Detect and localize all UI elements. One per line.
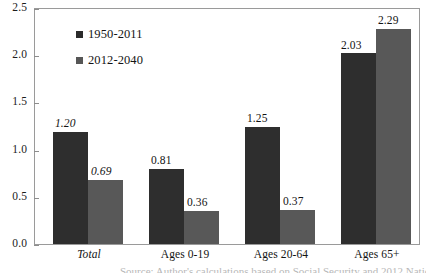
y-axis: 2.5 2.0 1.5 1.0 0.5 0.0 xyxy=(0,0,34,253)
bar-value-label: 1.25 xyxy=(247,112,268,124)
legend-swatch-icon xyxy=(76,57,83,64)
legend-swatch-icon xyxy=(76,31,83,38)
x-axis-label-ages-65-plus: Ages 65+ xyxy=(335,248,419,260)
y-axis-tick-label: 2.0 xyxy=(12,48,27,60)
y-axis-tick-label: 1.0 xyxy=(12,143,27,155)
y-axis-tick-label: 0.0 xyxy=(12,237,27,249)
bar-1950-2011-ages-0-19[interactable] xyxy=(149,169,184,246)
y-axis-tick-label: 1.5 xyxy=(12,95,27,107)
bar-value-label: 0.37 xyxy=(283,195,304,207)
x-axis-baseline xyxy=(35,244,419,245)
bar-value-label: 2.03 xyxy=(341,39,362,51)
bar-value-label: 0.36 xyxy=(187,196,208,208)
bar-chart: 2.5 2.0 1.5 1.0 0.5 0.0 1.20 xyxy=(0,0,426,273)
bar-1950-2011-total[interactable] xyxy=(53,132,88,245)
bar-group-ages-65-plus: 2.03 2.29 xyxy=(335,9,419,245)
bar-2012-2040-ages-20-64[interactable] xyxy=(280,210,315,245)
y-axis-tick-label: 2.5 xyxy=(12,1,27,13)
bar-value-label: 2.29 xyxy=(378,14,399,26)
legend-label: 2012-2040 xyxy=(88,53,143,68)
legend-item-2012-2040[interactable]: 2012-2040 xyxy=(76,52,143,69)
bar-value-label: 1.20 xyxy=(55,117,76,129)
source-caption: Source: Author's calculations based on S… xyxy=(120,265,426,273)
bar-2012-2040-ages-65-plus[interactable] xyxy=(376,29,411,245)
bar-1950-2011-ages-65-plus[interactable] xyxy=(341,53,376,245)
x-axis-label-total: Total xyxy=(47,248,131,260)
x-axis-label-ages-0-19: Ages 0-19 xyxy=(143,248,227,260)
y-axis-tick-label: 0.5 xyxy=(12,190,27,202)
legend-item-1950-2011[interactable]: 1950-2011 xyxy=(76,26,143,43)
bar-1950-2011-ages-20-64[interactable] xyxy=(245,127,280,245)
legend-label: 1950-2011 xyxy=(88,27,143,42)
bar-value-label: 0.81 xyxy=(151,154,172,166)
bar-2012-2040-ages-0-19[interactable] xyxy=(184,211,219,245)
bar-value-label: 0.69 xyxy=(91,165,112,177)
bar-group-ages-20-64: 1.25 0.37 xyxy=(239,9,323,245)
x-axis-label-ages-20-64: Ages 20-64 xyxy=(239,248,323,260)
bar-2012-2040-total[interactable] xyxy=(88,180,123,245)
chart-legend: 1950-2011 2012-2040 xyxy=(76,26,143,78)
bar-group-ages-0-19: 0.81 0.36 xyxy=(143,9,227,245)
y-axis-tick-mark xyxy=(34,245,39,246)
